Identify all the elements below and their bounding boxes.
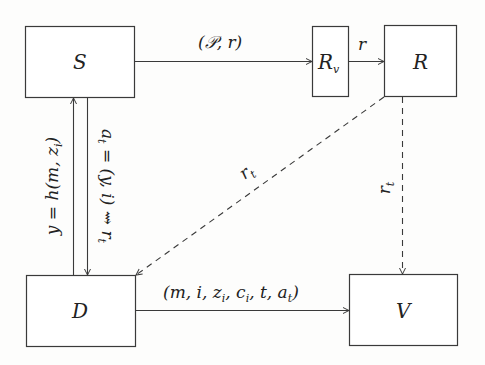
edge-rv-to-r-label: r xyxy=(358,36,366,53)
edge-d-to-s-label: y = h(m, zi) xyxy=(44,126,64,246)
node-d-label: D xyxy=(72,301,88,321)
node-v-label: V xyxy=(396,301,410,321)
node-r-label: R xyxy=(413,52,428,72)
edge-r-to-v-label: rt xyxy=(376,182,396,195)
node-s-label: S xyxy=(73,52,87,72)
edge-s-to-rv-label: (𝒫, r) xyxy=(198,34,242,51)
edge-d-to-v-label: (m, i, zi, ci, t, at) xyxy=(163,284,299,304)
diagram-canvas: S Rv R D V (𝒫, r) r y = h(m, zi) at = (y… xyxy=(0,0,485,365)
edge-r-to-d xyxy=(136,97,384,275)
node-rv-label: Rv xyxy=(318,52,339,75)
edge-s-to-d-label: at = (y, i) ⇝ rt xyxy=(96,121,116,251)
